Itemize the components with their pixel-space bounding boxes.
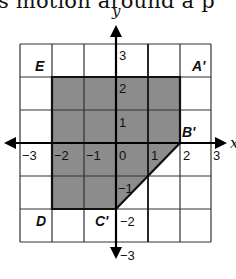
y-tick-label: −2 — [120, 214, 135, 229]
point-label-c-prime: C' — [95, 213, 109, 229]
point-label-e: E — [35, 58, 45, 74]
x-tick-label: −1 — [86, 148, 101, 163]
x-tick-label: −3 — [22, 148, 37, 163]
x-tick-label: 1 — [151, 148, 158, 163]
x-tick-label: 0 — [119, 148, 126, 163]
point-label-b-prime: B' — [182, 124, 196, 140]
y-tick-label: 2 — [119, 81, 126, 96]
y-tick-label: 1 — [119, 115, 126, 130]
x-tick-label: 3 — [213, 148, 220, 163]
arrow-up-icon — [110, 25, 122, 37]
point-label-d: D — [36, 213, 46, 229]
x-tick-label: 2 — [183, 148, 190, 163]
coordinate-grid-diagram: y x −3 −2 −1 0 1 2 3 3 2 1 −1 −2 −3 E A'… — [0, 0, 236, 279]
point-label-a-prime: A' — [191, 58, 206, 74]
y-axis-label: y — [111, 2, 121, 20]
arrow-left-icon — [4, 137, 16, 149]
y-tick-label: −1 — [118, 181, 133, 196]
x-axis-label: x — [230, 134, 236, 152]
y-tick-label: 3 — [119, 48, 126, 63]
y-tick-label: −3 — [120, 248, 135, 263]
x-tick-label: −2 — [54, 148, 69, 163]
